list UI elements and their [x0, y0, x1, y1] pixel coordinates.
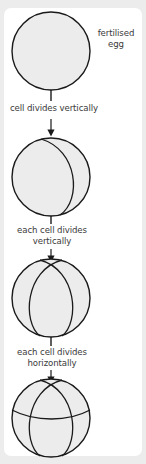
stage-1-label: fertilised egg	[94, 28, 138, 50]
label-line: each cell divides	[4, 225, 100, 236]
stage-3-four-cells	[12, 259, 90, 337]
label-line: egg	[94, 39, 138, 50]
label-line: cell divides vertically	[10, 103, 146, 114]
label-line: vertically	[4, 236, 100, 247]
stage-1-fertilised-egg	[12, 12, 90, 90]
stage-4-eight-cells	[12, 379, 90, 457]
label-line: each cell divides	[4, 347, 100, 358]
step-3-label: each cell divides horizontally	[4, 347, 100, 369]
step-2-label: each cell divides vertically	[4, 225, 100, 247]
step-1-label: cell divides vertically	[4, 103, 146, 114]
label-line: fertilised	[94, 28, 138, 39]
label-line: horizontally	[4, 358, 100, 369]
stage-2-two-cells	[12, 138, 90, 216]
